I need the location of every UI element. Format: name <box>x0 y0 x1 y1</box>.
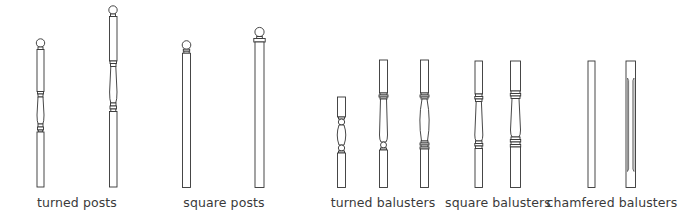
turned-post-short <box>36 39 44 187</box>
label-square-posts: square posts <box>183 195 264 210</box>
square-post-short <box>182 41 191 188</box>
square-baluster-1 <box>475 61 483 188</box>
turned-post-tall <box>109 6 117 187</box>
label-turned-posts: turned posts <box>37 195 117 210</box>
turned-baluster-2 <box>379 60 388 188</box>
label-turned-balusters: turned balusters <box>331 195 436 210</box>
label-square-balusters: square balusters <box>445 195 551 210</box>
chamfered-baluster-plain <box>588 61 595 188</box>
label-chamfered-balusters: chamfered balusters <box>547 195 678 210</box>
turned-baluster-3 <box>420 60 429 188</box>
square-baluster-2 <box>510 61 520 188</box>
stair-parts-illustration <box>0 0 696 220</box>
turned-baluster-short <box>337 97 346 188</box>
square-post-tall <box>254 27 265 187</box>
chamfered-baluster-chamfered <box>626 61 636 188</box>
